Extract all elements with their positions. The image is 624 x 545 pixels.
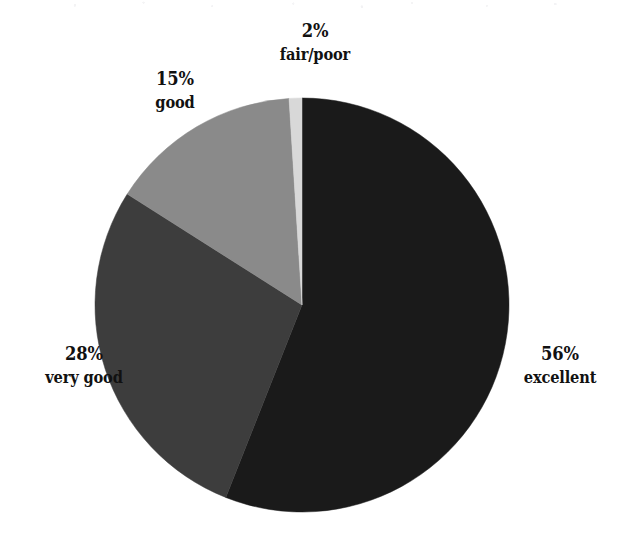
pie-label-fair-poor: 2% fair/poor xyxy=(235,18,395,65)
pie-label-very-good-category: very good xyxy=(12,366,156,388)
pie-label-good-percent: 15% xyxy=(106,66,244,91)
pie-label-good: 15% good xyxy=(95,66,255,113)
pie-label-excellent: 56% excellent xyxy=(480,341,624,388)
pie-label-very-good: 28% very good xyxy=(0,341,168,388)
pie-chart-graphic xyxy=(0,0,624,545)
pie-slice-group xyxy=(95,98,509,512)
pie-chart: 56% excellent 28% very good 15% good 2% … xyxy=(0,0,624,545)
pie-label-excellent-category: excellent xyxy=(491,366,624,388)
pie-label-very-good-percent: 28% xyxy=(12,341,156,366)
pie-label-fair-poor-category: fair/poor xyxy=(246,43,384,65)
pie-label-excellent-percent: 56% xyxy=(491,341,624,366)
pie-label-good-category: good xyxy=(106,91,244,113)
pie-label-fair-poor-percent: 2% xyxy=(246,18,384,43)
